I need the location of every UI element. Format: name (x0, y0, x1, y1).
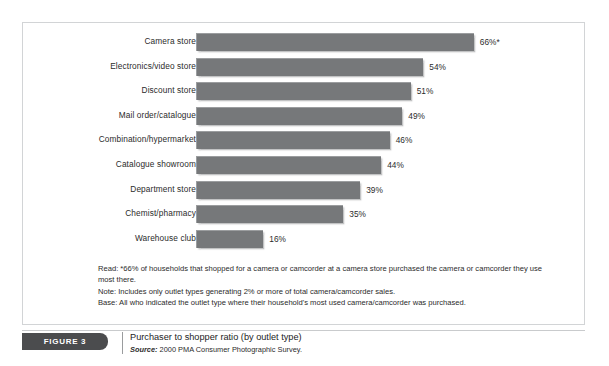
bar-graphic (196, 131, 390, 149)
bar-value-label: 35% (349, 209, 366, 219)
caption-text-block: Purchaser to shopper ratio (by outlet ty… (130, 331, 570, 355)
bar-fill (196, 131, 390, 149)
bar-row: Mail order/catalogue49% (23, 107, 584, 128)
bar-row: Electronics/video store54% (23, 58, 584, 79)
bar-category-label: Mail order/catalogue (0, 110, 196, 120)
bar-row: Warehouse club16% (23, 230, 584, 251)
bar-graphic (196, 181, 360, 199)
bar-category-label: Discount store (0, 85, 196, 95)
bar-category-label: Electronics/video store (0, 61, 196, 71)
figure-title: Purchaser to shopper ratio (by outlet ty… (130, 331, 570, 343)
bar-fill (196, 230, 263, 248)
bar-fill (196, 156, 381, 174)
footnote-block: Read: *66% of households that shopped fo… (98, 263, 560, 309)
bar-value-label: 16% (269, 234, 286, 244)
bar-row: Chemist/pharmacy35% (23, 205, 584, 226)
source-label: Source: (130, 345, 158, 354)
bar-value-label: 66%* (480, 37, 500, 47)
bar-graphic (196, 82, 411, 100)
bar-value-label: 54% (429, 62, 446, 72)
bar-fill (196, 58, 423, 76)
footnote-read: Read: *66% of households that shopped fo… (98, 263, 560, 286)
bar-row: Combination/hypermarket46% (23, 131, 584, 152)
bar-row: Catalogue showroom44% (23, 156, 584, 177)
bar-row: Camera store66%* (23, 33, 584, 54)
caption-vertical-divider (122, 332, 123, 354)
bar-fill (196, 181, 360, 199)
bar-value-label: 39% (366, 185, 383, 195)
bar-fill (196, 107, 402, 125)
bar-value-label: 46% (396, 135, 413, 145)
bar-graphic (196, 58, 423, 76)
bar-value-label: 51% (417, 86, 434, 96)
source-value: 2000 PMA Consumer Photographic Survey. (158, 345, 302, 354)
bar-fill (196, 33, 474, 51)
bar-graphic (196, 156, 381, 174)
bar-chart-plot-area: Camera store66%*Electronics/video store5… (23, 23, 584, 255)
footnote-note: Note: Includes only outlet types generat… (98, 286, 560, 297)
figure-source: Source: 2000 PMA Consumer Photographic S… (130, 344, 570, 355)
bar-category-label: Camera store (0, 36, 196, 46)
bar-row: Discount store51% (23, 82, 584, 103)
bar-category-label: Chemist/pharmacy (0, 208, 196, 218)
bar-fill (196, 205, 343, 223)
bar-fill (196, 82, 411, 100)
bar-category-label: Department store (0, 184, 196, 194)
bar-value-label: 44% (387, 160, 404, 170)
figure-number-badge: FIGURE 3 (22, 333, 108, 350)
bar-graphic (196, 107, 402, 125)
bar-category-label: Catalogue showroom (0, 159, 196, 169)
bar-row: Department store39% (23, 181, 584, 202)
bar-category-label: Warehouse club (0, 233, 196, 243)
bar-value-label: 49% (408, 111, 425, 121)
bar-graphic (196, 230, 263, 248)
chart-panel: Camera store66%*Electronics/video store5… (22, 22, 585, 325)
bar-category-label: Combination/hypermarket (0, 134, 196, 144)
figure-caption-strip: FIGURE 3 Purchaser to shopper ratio (by … (22, 330, 585, 360)
footnote-base: Base: All who indicated the outlet type … (98, 297, 560, 308)
bar-graphic (196, 33, 474, 51)
figure-container: Camera store66%*Electronics/video store5… (0, 0, 609, 366)
bar-graphic (196, 205, 343, 223)
